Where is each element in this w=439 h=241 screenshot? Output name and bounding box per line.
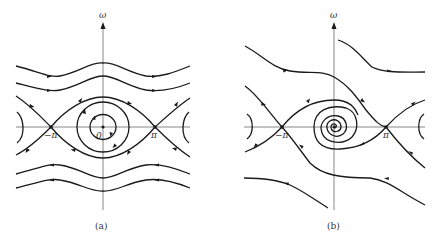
edge-arc-left-a xyxy=(17,112,23,143)
trajectory-top-right xyxy=(338,40,425,72)
caption-b: (b) xyxy=(327,221,340,231)
trajectory-bottom-left xyxy=(244,178,328,208)
trajectory-bottom-right xyxy=(282,127,425,205)
omega-axis-arrow-icon xyxy=(101,22,106,29)
edge-arc-left-b xyxy=(247,114,252,139)
caption-a: (a) xyxy=(95,221,107,231)
panel-a: ω 0 −π π xyxy=(16,10,190,231)
omega-axis-arrow-icon-b xyxy=(332,22,337,29)
trajectory-top-left xyxy=(245,46,386,127)
omega-label-b: ω xyxy=(330,10,338,20)
phase-portraits: ω 0 −π π xyxy=(0,0,439,241)
stable-spiral xyxy=(314,107,357,142)
edge-arc-right-a xyxy=(183,112,189,143)
edge-arc-right-b xyxy=(419,114,424,139)
center-point xyxy=(101,125,104,128)
spiral-focus xyxy=(333,126,336,129)
omega-label-a: ω xyxy=(99,10,107,20)
panel-b: ω −π π (b) xyxy=(244,10,425,231)
